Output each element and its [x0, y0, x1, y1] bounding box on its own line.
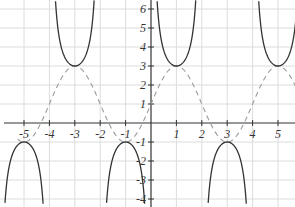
x-tick-label: -5 [19, 127, 29, 141]
y-tick-label: 2 [140, 78, 146, 92]
x-tick-label: 4 [250, 127, 256, 141]
y-tick-label: 1 [140, 97, 146, 111]
y-tick-label: 5 [140, 21, 146, 35]
x-tick-label: -4 [44, 127, 54, 141]
grid [0, 0, 295, 207]
x-tick-label: 5 [275, 127, 281, 141]
x-tick-label: -1 [121, 127, 131, 141]
x-tick-label: 3 [223, 127, 230, 141]
chart: -5-4-3-2-112345654321-1-2-3-4 [0, 0, 295, 207]
x-tick-label: 1 [173, 127, 179, 141]
y-tick-label: -1 [136, 135, 146, 149]
x-tick-label: -3 [70, 127, 80, 141]
y-tick-label: -3 [136, 173, 146, 187]
x-tick-label: 2 [199, 127, 205, 141]
cosecant-branch [259, 1, 295, 66]
y-tick-label: 3 [139, 59, 146, 73]
series [5, 0, 295, 203]
y-tick-label: 4 [140, 40, 146, 54]
x-tick-label: -2 [95, 127, 105, 141]
y-tick-label: 6 [140, 2, 146, 16]
